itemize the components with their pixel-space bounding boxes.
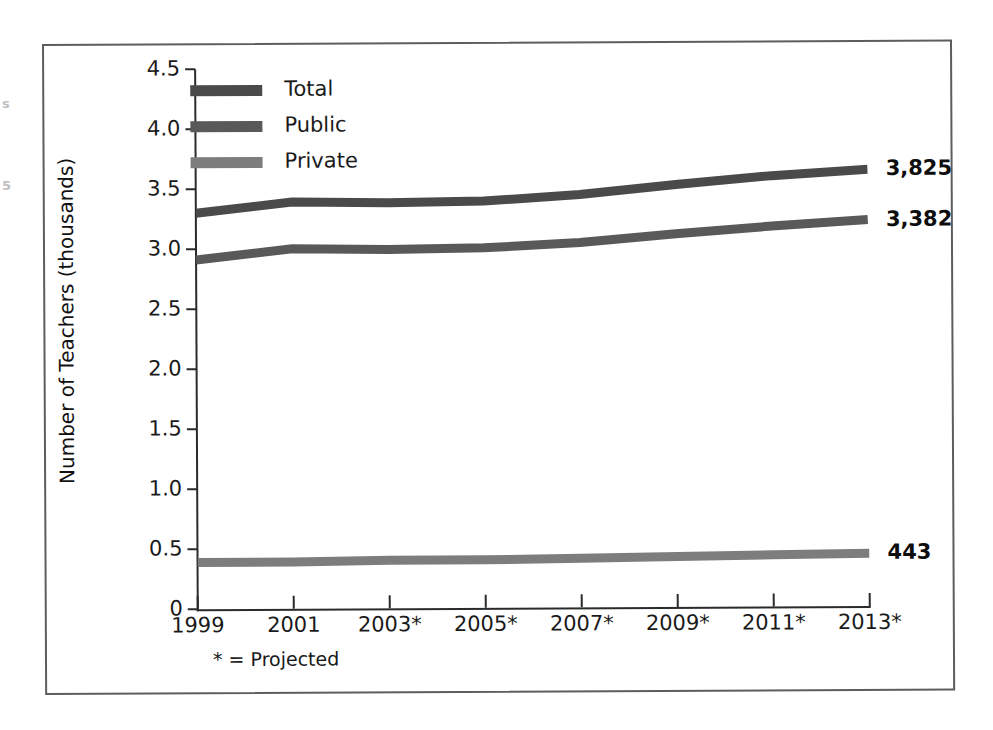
x-axis-tick-label: 2013* xyxy=(815,612,925,634)
series-line-total xyxy=(196,169,868,213)
scanned-page: s 5 00.51.01.52.02.53.03.54.04.5 1999200… xyxy=(0,0,993,730)
series-end-label-private: 443 xyxy=(887,540,931,564)
y-axis-tick xyxy=(186,248,196,250)
y-axis-tick xyxy=(187,368,197,370)
x-axis-tick-label: 1999 xyxy=(143,615,253,637)
y-axis-tick-label: 1.5 xyxy=(122,418,182,439)
line-swatch-icon xyxy=(190,121,262,132)
y-axis-tick-label: 4.0 xyxy=(120,118,180,139)
series-end-label-public: 3,382 xyxy=(886,206,953,230)
x-axis-tick-label: 2009* xyxy=(623,613,733,635)
footnote-projected: * = Projected xyxy=(213,648,339,671)
series-line-public xyxy=(196,220,868,260)
x-axis-ticks: 199920012003*2005*2007*2009*2011*2013* xyxy=(42,40,952,44)
y-axis-tick-label: 2.0 xyxy=(122,358,182,379)
page-edge-artifact-bottom: 5 xyxy=(2,178,10,193)
chart-figure: 00.51.01.52.02.53.03.54.04.5 19992001200… xyxy=(42,40,955,695)
series-end-labels: 3,8253,382443 xyxy=(42,40,952,44)
x-axis-tick-label: 2005* xyxy=(431,614,541,636)
y-axis-tick xyxy=(187,488,197,490)
legend-item-label: Public xyxy=(284,113,346,137)
y-axis-tick-label: 1.0 xyxy=(122,478,182,499)
y-axis-tick-label: 3.5 xyxy=(121,178,181,199)
y-axis-tick-label: 0.5 xyxy=(122,538,182,559)
chart-legend: TotalPublicPrivate xyxy=(190,73,191,181)
x-axis-tick-label: 2007* xyxy=(527,613,637,635)
y-axis-tick-label: 2.5 xyxy=(121,298,181,319)
y-axis-title: Number of Teachers (thousands) xyxy=(53,106,79,536)
x-axis-tick-label: 2011* xyxy=(719,612,829,634)
line-swatch-icon xyxy=(191,157,263,168)
y-axis-tick-label: 4.5 xyxy=(120,58,180,79)
y-axis-tick xyxy=(185,68,195,70)
page-edge-artifact-top: s xyxy=(2,96,9,111)
legend-item-label: Private xyxy=(285,148,358,172)
y-axis-tick-label: 3.0 xyxy=(121,238,181,259)
series-line-private xyxy=(198,553,870,562)
y-axis-ticks: 00.51.01.52.02.53.03.54.04.5 xyxy=(42,40,952,44)
series-end-label-total: 3,825 xyxy=(886,156,953,180)
x-axis-tick-label: 2001 xyxy=(239,615,349,637)
line-swatch-icon xyxy=(190,85,262,96)
y-axis-tick xyxy=(187,428,197,430)
plot-lines xyxy=(195,66,870,609)
y-axis-tick xyxy=(186,308,196,310)
x-axis-tick-label: 2003* xyxy=(335,614,445,636)
legend-item-label: Total xyxy=(284,77,333,101)
y-axis-tick xyxy=(187,548,197,550)
y-axis-tick xyxy=(186,188,196,190)
